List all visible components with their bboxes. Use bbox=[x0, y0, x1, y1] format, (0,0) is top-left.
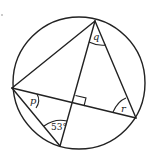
label-r: r bbox=[121, 103, 127, 114]
stray-dot bbox=[1, 14, 3, 16]
side-top-right bbox=[95, 21, 136, 118]
label-p: p bbox=[30, 95, 37, 106]
label-q: q bbox=[93, 31, 99, 42]
angle-arc-p bbox=[36, 94, 39, 108]
label-angle-53: 53° bbox=[51, 122, 67, 132]
geometry-diagram: q p 53° r bbox=[0, 0, 157, 158]
side-top-left bbox=[12, 21, 95, 88]
circle bbox=[13, 17, 145, 149]
